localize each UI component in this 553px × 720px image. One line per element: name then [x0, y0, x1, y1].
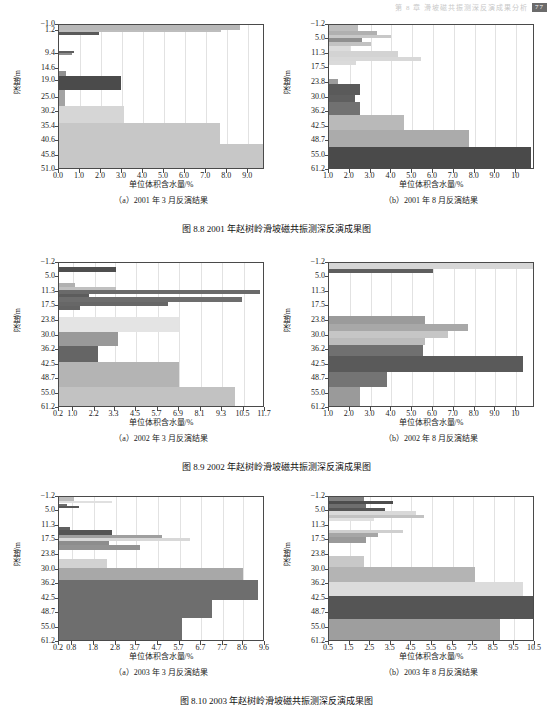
- y-axis-title: 深度/m: [12, 70, 24, 94]
- x-axis-title: 单位体积含水量/%: [328, 178, 534, 189]
- y-axis-tick-mark: [55, 97, 58, 98]
- y-axis-tick-mark: [55, 320, 58, 321]
- x-axis-tick-mark: [200, 407, 201, 411]
- y-axis-tick-label: 55.0: [41, 389, 55, 397]
- x-axis-title: 单位体积含水量/%: [58, 650, 264, 661]
- plot-area-wrapper: −1.25.011.317.523.830.036.242.548.755.06…: [328, 24, 534, 169]
- chart-2003-march: 深度/m−1.25.011.317.523.830.036.242.548.75…: [12, 490, 274, 665]
- y-axis-tick-label: 36.2: [311, 107, 325, 115]
- bar-segment: [59, 362, 179, 387]
- x-axis-tick-mark: [369, 641, 370, 645]
- x-axis-tick-mark: [114, 407, 115, 411]
- y-axis-tick-label: 1.2: [45, 26, 55, 34]
- y-axis-tick-mark: [55, 598, 58, 599]
- y-axis-tick-mark: [325, 67, 328, 68]
- figure-caption: 图 8.8 2001 年赵树岭滑坡磁共振测深反演成果图: [0, 222, 553, 235]
- y-axis-tick-mark: [325, 291, 328, 292]
- x-axis-tick-mark: [72, 407, 73, 411]
- plot-area-wrapper: −1.25.011.317.523.830.036.242.548.755.06…: [328, 262, 534, 407]
- bar-segment: [329, 372, 387, 387]
- grid-line: [243, 497, 244, 640]
- grid-line: [222, 263, 223, 406]
- x-axis-tick-mark: [115, 641, 116, 645]
- y-axis-tick-label: 55.0: [311, 623, 325, 631]
- bar-segment: [329, 102, 360, 115]
- plot-area: [328, 24, 534, 169]
- x-axis-tick-mark: [135, 641, 136, 645]
- bar-segment: [59, 346, 98, 362]
- y-axis-tick-mark: [55, 276, 58, 277]
- x-axis-tick-mark: [247, 169, 248, 173]
- y-axis-tick-label: 11.3: [311, 521, 325, 529]
- y-axis-tick-mark: [55, 569, 58, 570]
- bar-segment: [329, 115, 404, 130]
- bar-segment: [329, 387, 360, 407]
- page-number: 77: [532, 3, 547, 12]
- y-axis-tick-label: 17.5: [311, 535, 325, 543]
- x-axis-title: 单位体积含水量/%: [58, 416, 264, 427]
- page-canvas: 第 8 章 滑坡磁共振测深反演成果分析 77 深度/m−1.01.29.414.…: [0, 0, 553, 720]
- y-axis-tick-label: 45.8: [41, 151, 55, 159]
- y-axis-tick-label: 5.0: [45, 272, 55, 280]
- x-axis-tick-mark: [221, 407, 222, 411]
- y-axis-tick-mark: [55, 305, 58, 306]
- y-axis-tick-mark: [325, 569, 328, 570]
- y-axis-tick-mark: [55, 510, 58, 511]
- y-axis-tick-label: 17.5: [311, 301, 325, 309]
- y-axis-tick-mark: [55, 612, 58, 613]
- bar-segment: [329, 537, 366, 543]
- y-axis-tick-mark: [55, 140, 58, 141]
- x-axis-tick-mark: [94, 407, 95, 411]
- x-axis-tick-mark: [328, 407, 329, 411]
- y-axis-tick-label: 55.0: [311, 151, 325, 159]
- x-axis-tick-mark: [135, 407, 136, 411]
- y-axis-tick-mark: [325, 525, 328, 526]
- chart-2001-march: 深度/m−1.01.29.414.619.025.030.235.440.645…: [12, 18, 274, 193]
- y-axis-tick-label: −1.2: [40, 492, 55, 500]
- x-axis-tick-mark: [453, 169, 454, 173]
- grid-line: [495, 263, 496, 406]
- page-header-text: 第 8 章 滑坡磁共振测深反演成果分析: [395, 2, 528, 12]
- x-axis-title: 单位体积含水量/%: [328, 416, 534, 427]
- bar-segment: [329, 147, 531, 169]
- y-axis-tick-label: 19.0: [41, 76, 55, 84]
- x-axis-tick-mark: [264, 407, 265, 411]
- plot-area-wrapper: −1.25.011.317.523.830.036.242.548.755.06…: [58, 496, 264, 641]
- bar-segment: [59, 545, 140, 549]
- y-axis-tick-mark: [55, 291, 58, 292]
- y-axis-tick-label: 48.7: [311, 374, 325, 382]
- y-axis-tick-mark: [325, 140, 328, 141]
- bar-segment: [59, 580, 258, 600]
- figure-block-8-9: 深度/m−1.25.011.317.523.830.036.242.548.75…: [0, 256, 553, 431]
- y-axis-tick-mark: [325, 510, 328, 511]
- y-axis-tick-mark: [55, 554, 58, 555]
- y-axis-tick-mark: [55, 30, 58, 31]
- x-axis-tick-mark: [515, 169, 516, 173]
- bar-segment: [329, 130, 469, 147]
- y-axis-tick-label: 17.5: [41, 535, 55, 543]
- x-axis-tick-mark: [178, 407, 179, 411]
- x-axis-tick-mark: [452, 641, 453, 645]
- x-axis-title: 单位体积含水量/%: [58, 178, 264, 189]
- figure-caption: 图 8.9 2002 年赵树岭滑坡磁共振测深反演成果图: [0, 460, 553, 473]
- y-axis-tick-mark: [55, 627, 58, 628]
- y-axis-tick-label: 30.0: [41, 331, 55, 339]
- x-axis-tick-mark: [349, 169, 350, 173]
- figure-caption: 图 8.10 2003 年赵树岭滑坡磁共振测深反演成果图: [0, 694, 553, 707]
- y-axis-tick-label: 5.0: [315, 506, 325, 514]
- x-axis-tick-mark: [205, 169, 206, 173]
- x-axis-tick-mark: [142, 169, 143, 173]
- bar-segment: [59, 144, 264, 169]
- y-axis-tick-label: 25.0: [41, 93, 55, 101]
- y-axis-tick-label: 30.0: [311, 93, 325, 101]
- x-axis-tick-mark: [157, 407, 158, 411]
- bar-segment: [329, 324, 468, 331]
- x-axis-tick-mark: [370, 169, 371, 173]
- y-axis-tick-label: 30.0: [41, 565, 55, 573]
- bar-segment: [329, 556, 364, 568]
- x-axis-tick-mark: [390, 641, 391, 645]
- y-axis-tick-label: 11.3: [41, 521, 55, 529]
- plot-area: [58, 24, 264, 169]
- y-axis-tick-label: 55.0: [311, 389, 325, 397]
- y-axis-tick-mark: [325, 627, 328, 628]
